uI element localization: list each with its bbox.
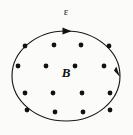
field-dot (107, 44, 112, 49)
magnetic-field-label: B (54, 66, 78, 80)
field-dot (108, 108, 113, 113)
emf-label: ε (56, 5, 76, 17)
physics-figure: ε B (0, 0, 133, 135)
field-dot (51, 91, 56, 96)
field-dot (80, 91, 85, 96)
field-dot (23, 44, 28, 49)
field-dot (102, 64, 107, 69)
field-dot (79, 43, 84, 48)
field-dot (108, 91, 113, 96)
field-dot (25, 108, 30, 113)
field-dot (53, 110, 58, 115)
field-dot (16, 64, 21, 69)
field-dot (81, 110, 86, 115)
field-dot (44, 64, 49, 69)
field-dot (23, 91, 28, 96)
field-dot (52, 43, 57, 48)
top-arrowhead-icon (63, 28, 72, 35)
